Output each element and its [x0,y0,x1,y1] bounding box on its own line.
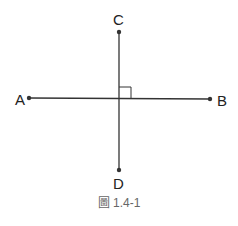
label-a: A [15,92,25,107]
point-a [27,96,31,100]
point-c [117,30,121,34]
point-d [117,168,121,172]
label-b: B [217,93,227,108]
label-d: D [113,176,124,191]
right-angle-marker [119,87,131,99]
point-b [208,97,212,101]
figure-caption: 圖 1.4-1 [0,193,238,210]
label-c: C [113,12,124,27]
